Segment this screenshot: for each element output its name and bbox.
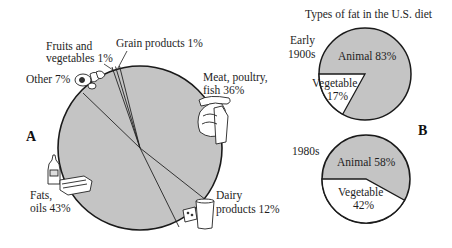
label-vegetable-1980s-line1: Vegetable [338,186,383,199]
label-animal-early: Animal 83% [338,50,397,62]
label-1980s: 1980s [292,145,320,157]
label-vegetable-early-line2: 17% [327,90,349,102]
label-dairy-line2: products 12% [216,203,280,216]
label-vegetable-1980s-line2: 42% [353,199,375,211]
leader-grain [118,51,127,68]
label-early-line1: Early [290,34,315,47]
label-fruits-line1: Fruits and [46,40,93,52]
label-fats-line1: Fats, [30,189,52,202]
label-animal-1980s: Animal 58% [337,156,396,168]
figure: Fruits and vegetables 1% Grain products … [0,0,452,248]
panel-label-b: B [418,123,427,138]
panel-b-title: Types of fat in the U.S. diet [305,8,433,21]
label-meat-line1: Meat, poultry, [203,71,268,84]
label-fruits-line2: vegetables 1% [46,52,113,65]
label-fats-line2: oils 43% [30,202,71,214]
panel-label-a: A [26,129,37,144]
label-meat-line2: fish 36% [203,84,245,96]
label-other: Other 7% [26,73,71,85]
label-vegetable-early-line1: Vegetable [312,77,357,90]
label-early-line2: 1900s [288,48,316,60]
label-grain: Grain products 1% [116,37,203,50]
pie-chart-early-1900s [319,28,411,120]
leader-fruits [104,64,113,70]
label-dairy-line1: Dairy [216,189,242,202]
